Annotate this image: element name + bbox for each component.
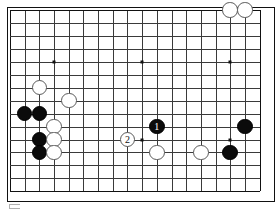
- stone-move-number: 1: [150, 120, 164, 134]
- stone-white[interactable]: [237, 2, 253, 18]
- stone-move-1[interactable]: 1: [149, 119, 165, 135]
- stone-white[interactable]: [222, 2, 238, 18]
- stone-move-2[interactable]: 2: [120, 132, 136, 148]
- stone-white[interactable]: [193, 145, 209, 161]
- stone-white[interactable]: [61, 93, 77, 109]
- stone-black[interactable]: [222, 145, 238, 161]
- go-board-frame: [7, 7, 275, 202]
- go-board[interactable]: 12: [7, 7, 275, 202]
- stone-black[interactable]: [237, 119, 253, 135]
- go-diagram-root: 12: [0, 0, 279, 213]
- page-corner-mark-icon: [9, 204, 21, 210]
- stone-white[interactable]: [149, 145, 165, 161]
- stone-white[interactable]: [46, 145, 62, 161]
- stone-move-number: 2: [121, 133, 135, 147]
